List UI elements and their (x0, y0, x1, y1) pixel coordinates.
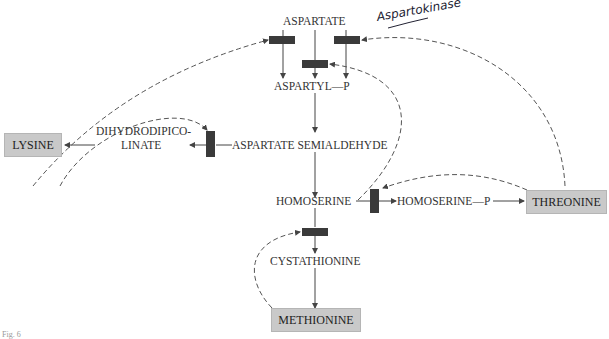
node-homoserine-phosphate: HOMOSERINE—P (397, 195, 490, 208)
dhdp-synthase-block (206, 131, 215, 157)
cystathionine-synthase-block (302, 228, 328, 236)
node-aspartate-semialdehyde: ASPARTATE SEMIALDEHYDE (232, 139, 387, 152)
figure-label: Fig. 6 (2, 330, 21, 339)
lysine-label: LYSINE (12, 138, 53, 153)
node-dihydrodipicolinate-line2: LINATE (121, 139, 161, 152)
aspartokinase-block-methionine (302, 60, 328, 68)
node-homoserine: HOMOSERINE (276, 195, 351, 208)
aspartokinase-block-lysine (269, 36, 295, 44)
node-cystathionine: CYSTATHIONINE (270, 255, 360, 268)
homoserine-kinase-block (370, 189, 379, 213)
methionine-label: METHIONINE (278, 313, 353, 328)
threonine-label: THREONINE (532, 195, 601, 210)
node-lysine: LYSINE (4, 133, 62, 157)
node-aspartyl-phosphate: ASPARTYL—P (274, 80, 350, 93)
node-aspartate: ASPARTATE (283, 15, 346, 28)
node-dihydrodipicolinate-line1: DIHYDRODIPICO- (96, 125, 191, 138)
aspartokinase-block-threonine (334, 36, 360, 44)
node-methionine: METHIONINE (271, 308, 361, 332)
node-threonine: THREONINE (526, 190, 607, 214)
